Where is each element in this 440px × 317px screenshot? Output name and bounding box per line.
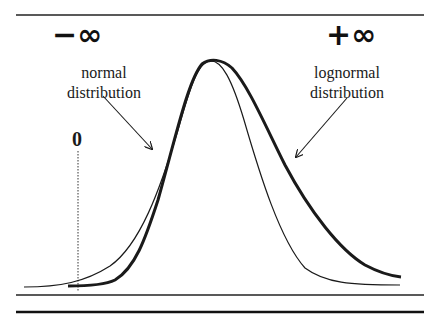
positive-infinity-label: +∞ xyxy=(326,17,376,52)
negative-infinity-label: −∞ xyxy=(52,17,102,52)
distribution-comparison-diagram: −∞ +∞ normal distribution lognormal dist… xyxy=(0,0,440,317)
zero-label: 0 xyxy=(72,128,82,150)
lognormal-distribution-label-line1: lognormal xyxy=(314,64,380,82)
normal-distribution-arrow xyxy=(103,96,152,149)
normal-distribution-label-line2: distribution xyxy=(67,84,141,101)
normal-distribution-label-line1: normal xyxy=(81,64,127,81)
lognormal-distribution-arrow xyxy=(296,98,347,157)
